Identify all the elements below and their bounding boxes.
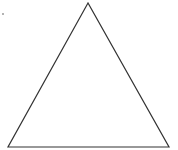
- triangle-shape: [8, 3, 169, 147]
- scan-speck: [2, 13, 4, 15]
- triangle-diagram: [0, 0, 178, 150]
- diagram-canvas: [0, 0, 178, 150]
